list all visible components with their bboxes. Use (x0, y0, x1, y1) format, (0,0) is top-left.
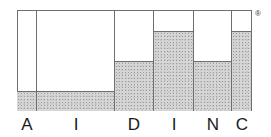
column-fill (154, 31, 193, 111)
letter-i2: I (164, 116, 184, 134)
column-fill (17, 91, 36, 111)
column-fill (37, 91, 114, 111)
column-i2 (154, 10, 194, 111)
column-fill (194, 61, 231, 111)
letter-i: I (66, 116, 86, 134)
column-n (194, 10, 232, 111)
column-c (232, 10, 252, 111)
letter-n: N (203, 116, 223, 134)
letter-c: C (232, 116, 252, 134)
column-fill (232, 31, 251, 111)
letter-d: D (124, 116, 144, 134)
column-d (115, 10, 154, 111)
column-a (17, 10, 37, 111)
column-fill (115, 61, 153, 111)
registered-mark-icon: ® (255, 9, 261, 18)
column-i (37, 10, 115, 111)
letter-a: A (17, 116, 37, 134)
